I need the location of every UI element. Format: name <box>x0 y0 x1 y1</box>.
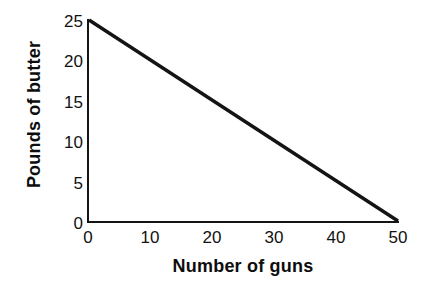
series-line-production-possibilities-frontier <box>89 20 398 221</box>
chart-screenshot: 25 20 15 10 5 0 0 10 20 30 40 50 Pounds … <box>0 0 428 289</box>
y-axis-title: Pounds of butter <box>24 20 45 210</box>
x-tick-label-50: 50 <box>368 229 428 246</box>
y-tick-label-20: 20 <box>42 53 83 70</box>
x-tick-label-20: 20 <box>182 229 242 246</box>
y-tick-label-5: 5 <box>42 175 83 192</box>
x-tick-label-30: 30 <box>244 229 304 246</box>
y-tick-label-25: 25 <box>42 13 83 30</box>
x-tick-label-0: 0 <box>58 229 118 246</box>
y-tick-label-15: 15 <box>42 94 83 111</box>
x-axis-title: Number of guns <box>88 256 398 277</box>
x-tick-label-40: 40 <box>306 229 366 246</box>
x-axis-tick-labels: 0 10 20 30 40 50 <box>0 229 428 253</box>
x-tick-label-10: 10 <box>120 229 180 246</box>
y-tick-label-10: 10 <box>42 134 83 151</box>
